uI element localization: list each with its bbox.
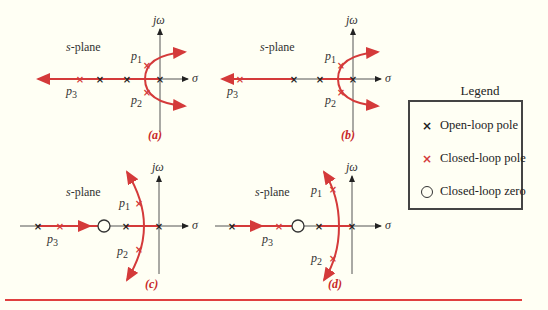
panel-a-jw-label: jω xyxy=(153,13,165,28)
legend-label: Closed-loop zero xyxy=(440,184,526,199)
panel-c-p2: p2 xyxy=(117,244,128,260)
panel-b: × × × × × × xyxy=(222,29,381,132)
svg-text:×: × xyxy=(329,253,337,264)
panel-b-p3: p3 xyxy=(227,84,238,100)
legend-item-closed-loop-pole: × Closed-loop pole xyxy=(420,151,526,166)
svg-text:×: × xyxy=(135,244,143,255)
svg-text:×: × xyxy=(290,74,298,85)
panel-a-caption: (a) xyxy=(148,128,162,143)
panel-c: × × × × × × xyxy=(20,172,188,280)
svg-text:×: × xyxy=(155,221,163,232)
panel-c-caption: (c) xyxy=(145,277,158,292)
svg-text:×: × xyxy=(316,74,324,85)
panel-b-sigma-label: σ xyxy=(385,71,391,86)
legend-box: × Open-loop pole × Closed-loop pole Clos… xyxy=(408,100,523,210)
svg-text:×: × xyxy=(96,74,104,85)
panel-d-jw-label: jω xyxy=(346,160,358,175)
svg-text:×: × xyxy=(348,221,356,232)
svg-text:×: × xyxy=(34,221,42,232)
panel-d-sigma-label: σ xyxy=(385,218,391,233)
panel-d-p2: p2 xyxy=(311,251,322,267)
footer-rule xyxy=(5,299,522,301)
legend-item-closed-loop-zero: Closed-loop zero xyxy=(420,184,526,199)
panel-c-sigma-label: σ xyxy=(192,218,198,233)
panel-d: × × × × × × xyxy=(215,172,381,280)
panel-b-caption: (b) xyxy=(341,128,355,143)
svg-text:×: × xyxy=(337,60,345,71)
panel-d-p1: p1 xyxy=(311,183,322,199)
panel-c-p1: p1 xyxy=(119,196,130,212)
panel-b-p1: p1 xyxy=(325,49,336,65)
panel-a-p2: p2 xyxy=(131,93,142,109)
legend-item-open-loop-pole: × Open-loop pole xyxy=(420,118,518,133)
panel-b-p2: p2 xyxy=(325,93,336,109)
panel-d-p3: p3 xyxy=(262,232,273,248)
panel-b-jw-label: jω xyxy=(346,13,358,28)
svg-text:×: × xyxy=(329,184,337,195)
svg-text:×: × xyxy=(76,74,84,85)
panel-c-jw-label: jω xyxy=(152,160,164,175)
svg-text:×: × xyxy=(349,74,357,85)
svg-text:×: × xyxy=(143,60,151,71)
panel-c-plane-label: s-plane xyxy=(66,185,101,200)
panel-a-plane-label: s-plane xyxy=(66,40,101,55)
svg-text:×: × xyxy=(228,221,236,232)
panel-b-plane-label: s-plane xyxy=(260,40,295,55)
panel-a: × × × × × × xyxy=(38,29,188,132)
panel-d-plane-label: s-plane xyxy=(255,185,290,200)
panel-a-sigma-label: σ xyxy=(192,71,198,86)
svg-text:×: × xyxy=(143,87,151,98)
legend-label: Open-loop pole xyxy=(440,118,518,133)
svg-text:×: × xyxy=(122,221,130,232)
closed-loop-pole-icon: × xyxy=(420,152,434,166)
panel-a-p3: p3 xyxy=(66,84,77,100)
closed-loop-zero-icon xyxy=(421,186,433,198)
svg-text:×: × xyxy=(337,87,345,98)
svg-text:×: × xyxy=(156,74,164,85)
open-loop-pole-icon: × xyxy=(420,119,434,133)
legend-title: Legend xyxy=(440,83,520,99)
svg-text:×: × xyxy=(315,221,323,232)
svg-text:×: × xyxy=(275,221,283,232)
panel-c-p3: p3 xyxy=(47,232,58,248)
panel-d-caption: (d) xyxy=(328,277,342,292)
panel-a-p1: p1 xyxy=(131,49,142,65)
legend-label: Closed-loop pole xyxy=(440,151,526,166)
svg-text:×: × xyxy=(56,221,64,232)
svg-text:×: × xyxy=(123,74,131,85)
svg-text:×: × xyxy=(135,198,143,209)
